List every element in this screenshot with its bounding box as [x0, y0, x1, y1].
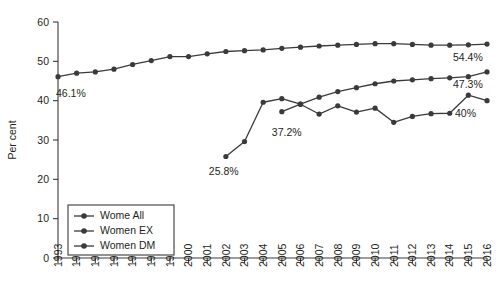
data-point-marker [335, 43, 340, 48]
data-point-marker [410, 114, 415, 119]
data-point-marker [372, 81, 377, 86]
data-point-marker [205, 51, 210, 56]
data-point-marker [317, 111, 322, 116]
data-point-marker [130, 62, 135, 67]
x-tick-label: 2001 [201, 243, 213, 267]
legend-swatch-marker [81, 243, 87, 249]
data-point-marker [484, 69, 489, 74]
chart-container: 0102030405060Per cent1993199419951996199… [0, 0, 500, 303]
x-tick-label: 2003 [238, 243, 250, 267]
data-point-marker [74, 71, 79, 76]
x-tick-label: 2005 [276, 243, 288, 267]
y-tick-label: 50 [37, 55, 49, 67]
data-point-marker [261, 47, 266, 52]
x-tick-label: 2012 [406, 243, 418, 267]
data-point-marker [223, 154, 228, 159]
data-point-marker [298, 45, 303, 50]
x-tick-label: 2015 [462, 243, 474, 267]
data-point-marker [279, 46, 284, 51]
x-tick-label: 2006 [294, 243, 306, 267]
x-tick-label: 2000 [182, 243, 194, 267]
y-tick-label: 10 [37, 212, 49, 224]
data-point-marker [484, 98, 489, 103]
data-point-marker [279, 96, 284, 101]
data-point-marker [372, 41, 377, 46]
data-point-marker [447, 43, 452, 48]
y-tick-label: 30 [37, 134, 49, 146]
data-point-marker [372, 106, 377, 111]
data-point-marker [223, 49, 228, 54]
data-point-marker [335, 89, 340, 94]
y-tick-label: 0 [43, 252, 49, 264]
data-point-marker [447, 75, 452, 80]
data-point-marker [317, 95, 322, 100]
y-tick-label: 40 [37, 94, 49, 106]
data-point-marker [391, 41, 396, 46]
data-point-marker [242, 48, 247, 53]
data-point-marker [466, 42, 471, 47]
series-line [58, 44, 487, 77]
data-point-marker [167, 54, 172, 59]
data-point-marker [410, 42, 415, 47]
x-tick-label: 2008 [332, 243, 344, 267]
data-point-marker [55, 74, 60, 79]
value-annotation: 47.3% [453, 78, 483, 90]
data-point-marker [317, 43, 322, 48]
y-tick-label: 60 [37, 16, 49, 28]
y-axis-title: Per cent [6, 120, 18, 159]
annotations-group: 46.1%54.4%25.8%37.2%47.3%40% [56, 51, 483, 176]
value-annotation: 40% [455, 107, 476, 119]
data-point-marker [186, 54, 191, 59]
x-tick-label: 2004 [257, 243, 269, 267]
data-point-marker [484, 41, 489, 46]
data-point-marker [354, 42, 359, 47]
data-point-marker [298, 102, 303, 107]
data-point-marker [279, 109, 284, 114]
data-point-marker [447, 111, 452, 116]
x-tick-label: 2013 [425, 243, 437, 267]
legend-swatch-marker [81, 228, 87, 234]
x-tick-label: 2010 [369, 243, 381, 267]
legend-item-label: Wome All [100, 209, 144, 221]
value-annotation: 46.1% [56, 87, 86, 99]
data-point-marker [93, 69, 98, 74]
data-point-marker [111, 67, 116, 72]
data-point-marker [391, 78, 396, 83]
line-chart: 0102030405060Per cent1993199419951996199… [0, 0, 500, 303]
x-tick-label: 1993 [52, 243, 64, 267]
legend-item-label: Women DM [100, 239, 155, 251]
data-point-marker [354, 85, 359, 90]
legend-swatch-marker [81, 213, 87, 219]
data-point-marker [149, 58, 154, 63]
value-annotation: 54.4% [453, 51, 483, 63]
x-tick-label: 2011 [388, 244, 400, 267]
x-tick-label: 2009 [350, 243, 362, 267]
value-annotation: 25.8% [209, 165, 239, 177]
data-point-marker [335, 103, 340, 108]
legend: Wome AllWomen EXWomen DM [68, 205, 174, 255]
data-point-marker [428, 43, 433, 48]
data-point-marker [242, 139, 247, 144]
data-point-marker [466, 93, 471, 98]
x-tick-label: 2002 [220, 243, 232, 267]
value-annotation: 37.2% [272, 126, 302, 138]
data-point-marker [410, 77, 415, 82]
data-point-marker [428, 76, 433, 81]
x-tick-label: 2007 [313, 243, 325, 267]
legend-item-label: Women EX [100, 224, 153, 236]
data-point-marker [261, 100, 266, 105]
data-point-marker [391, 120, 396, 125]
series-1 [55, 41, 489, 79]
x-tick-label: 2016 [481, 243, 493, 267]
data-point-marker [354, 109, 359, 114]
x-tick-label: 2014 [443, 243, 455, 267]
data-point-marker [428, 111, 433, 116]
y-tick-label: 20 [37, 173, 49, 185]
